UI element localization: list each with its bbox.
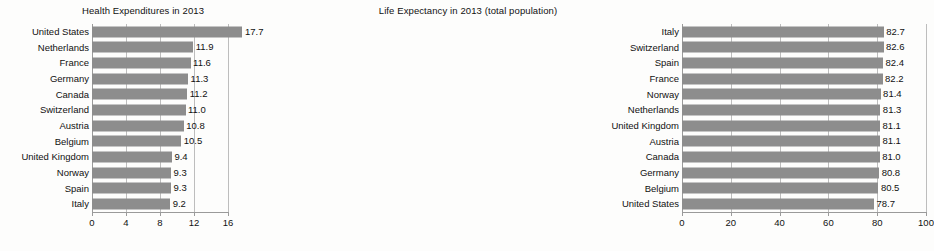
bar-value-label: 81.4 xyxy=(881,90,902,100)
value-axis-line xyxy=(682,212,927,213)
category-label: Switzerland xyxy=(630,40,682,56)
gridline xyxy=(228,24,229,212)
bar xyxy=(92,42,193,53)
bar-row: Netherlands11.9 xyxy=(92,40,228,56)
axis-tick xyxy=(926,213,927,216)
bar-value-label: 81.1 xyxy=(880,137,901,147)
bar-value-label: 82.2 xyxy=(883,74,904,84)
bar-value-label: 11.2 xyxy=(187,90,207,100)
bar-row: United States78.7 xyxy=(682,196,926,212)
axis-tick-label: 40 xyxy=(774,218,785,228)
bar xyxy=(682,42,884,53)
bar xyxy=(682,136,880,147)
bar xyxy=(92,199,170,210)
plot-area-right: Italy82.7Switzerland82.6Spain82.4France8… xyxy=(682,24,926,212)
category-label: Belgium xyxy=(645,181,682,197)
bar-value-label: 9.3 xyxy=(171,168,187,178)
category-label: United States xyxy=(622,196,682,212)
category-label: Italy xyxy=(72,196,92,212)
bar xyxy=(682,120,880,131)
bar xyxy=(92,58,191,69)
category-label: United Kingdom xyxy=(611,118,682,134)
bar-value-label: 10.5 xyxy=(181,137,202,147)
axis-tick-label: 20 xyxy=(726,218,737,228)
bar xyxy=(682,105,880,116)
bar-value-label: 11.9 xyxy=(193,43,213,53)
axis-tick xyxy=(228,213,229,216)
bar xyxy=(682,199,874,210)
bar-row: United States17.7 xyxy=(92,24,228,40)
bar-value-label: 17.7 xyxy=(242,27,263,37)
bar-value-label: 81.1 xyxy=(880,121,901,131)
axis-tick-label: 0 xyxy=(679,218,684,228)
bar-value-label: 11.0 xyxy=(186,105,206,115)
bar xyxy=(92,183,171,194)
bar xyxy=(682,26,884,37)
axis-tick-label: 100 xyxy=(918,218,934,228)
bar-rows: United States17.7Netherlands11.9France11… xyxy=(92,24,228,212)
bar-row: Belgium10.5 xyxy=(92,134,228,150)
bar xyxy=(92,120,184,131)
category-label: Norway xyxy=(647,87,682,103)
category-label: United States xyxy=(32,24,92,40)
axis-tick-label: 12 xyxy=(189,218,200,228)
axis-tick xyxy=(780,213,781,216)
bar xyxy=(92,89,187,100)
category-label: Germany xyxy=(640,165,682,181)
bar xyxy=(92,73,188,84)
bar-row: Italy82.7 xyxy=(682,24,926,40)
bar-row: Austria81.1 xyxy=(682,134,926,150)
bar-value-label: 10.8 xyxy=(184,121,205,131)
plot-area-left: United States17.7Netherlands11.9France11… xyxy=(92,24,228,212)
category-label: Netherlands xyxy=(38,40,92,56)
axis-tick xyxy=(731,213,732,216)
axis-tick xyxy=(194,213,195,216)
axis-tick-label: 0 xyxy=(89,218,94,228)
axis-tick-label: 60 xyxy=(823,218,834,228)
bar-row: Canada81.0 xyxy=(682,149,926,165)
bar-row: Spain9.3 xyxy=(92,181,228,197)
bar-row: Austria10.8 xyxy=(92,118,228,134)
bar xyxy=(92,26,242,37)
category-label: Belgium xyxy=(55,134,92,150)
bar-row: Germany80.8 xyxy=(682,165,926,181)
bar-value-label: 80.5 xyxy=(878,184,899,194)
bar-rows: Italy82.7Switzerland82.6Spain82.4France8… xyxy=(682,24,926,212)
bar-value-label: 9.3 xyxy=(171,184,187,194)
category-label: France xyxy=(649,71,682,87)
category-label: Netherlands xyxy=(628,102,682,118)
bar-value-label: 9.4 xyxy=(172,152,188,162)
category-label: United Kingdom xyxy=(21,149,92,165)
bar-value-label: 82.6 xyxy=(884,43,905,53)
bar-row: Netherlands81.3 xyxy=(682,102,926,118)
bar-row: Germany11.3 xyxy=(92,71,228,87)
bar xyxy=(92,167,171,178)
axis-tick xyxy=(126,213,127,216)
axis-tick-label: 80 xyxy=(872,218,883,228)
bar xyxy=(682,89,881,100)
bar xyxy=(682,58,883,69)
chart-title-right: Life Expectancy in 2013 (total populatio… xyxy=(314,5,628,16)
bar-row: United Kingdom9.4 xyxy=(92,149,228,165)
bar-value-label: 78.7 xyxy=(874,199,895,209)
bar xyxy=(682,183,878,194)
bar-value-label: 82.4 xyxy=(883,58,904,68)
bar-row: Italy9.2 xyxy=(92,196,228,212)
bar xyxy=(682,167,879,178)
gridline xyxy=(926,24,927,212)
axis-tick-label: 16 xyxy=(223,218,234,228)
category-label: Norway xyxy=(57,165,92,181)
bar-value-label: 81.3 xyxy=(880,105,901,115)
category-label: Austria xyxy=(59,118,92,134)
chart-title-left: Health Expenditures in 2013 xyxy=(0,5,314,16)
bar-row: France82.2 xyxy=(682,71,926,87)
chart-panel-life-expectancy: Life Expectancy in 2013 (total populatio… xyxy=(314,0,628,251)
chart-panel-health-expenditures: Health Expenditures in 2013 United State… xyxy=(0,0,314,251)
category-label: Spain xyxy=(65,181,92,197)
bar-row: United Kingdom81.1 xyxy=(682,118,926,134)
bar-row: Norway9.3 xyxy=(92,165,228,181)
bar xyxy=(682,152,880,163)
category-label: Spain xyxy=(655,55,682,71)
bar-value-label: 11.3 xyxy=(188,74,208,84)
axis-tick xyxy=(877,213,878,216)
